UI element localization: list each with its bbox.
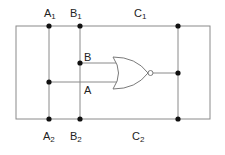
nor-gate-inversion-bubble: [148, 71, 153, 76]
node-input-b: [77, 60, 82, 65]
label-c2: C2: [132, 131, 144, 144]
node-c2: [175, 116, 180, 121]
node-output: [175, 70, 180, 75]
node-c1: [175, 23, 180, 28]
label-b1: B1: [70, 8, 82, 21]
label-input-b: B: [84, 52, 91, 63]
nor-gate: [113, 57, 153, 89]
node-a1: [46, 23, 51, 28]
label-b2: B2: [70, 131, 82, 144]
circuit-diagram: [0, 0, 225, 155]
label-input-a: A: [84, 85, 91, 96]
label-c1: C1: [134, 8, 146, 21]
label-a2: A2: [43, 131, 55, 144]
node-a2: [46, 116, 51, 121]
node-input-a: [46, 79, 51, 84]
node-b2: [77, 116, 82, 121]
outer-loop-wire: [16, 26, 210, 119]
nor-gate-body: [113, 57, 148, 89]
node-b1: [77, 23, 82, 28]
label-a1: A1: [44, 8, 56, 21]
